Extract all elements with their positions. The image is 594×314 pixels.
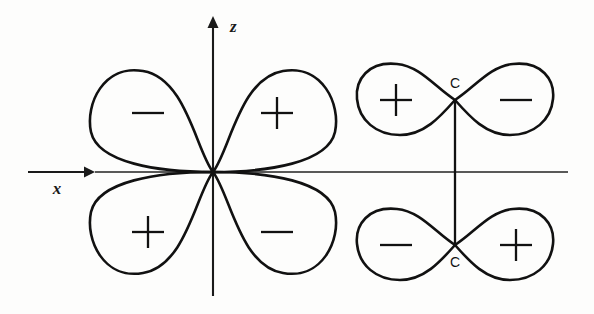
orbital-diagram-figure: x z xyxy=(0,0,594,314)
diagram-canvas: x z xyxy=(0,0,594,314)
d-orbital-lobe-upper-right xyxy=(213,70,336,172)
lower-carbon-label: C xyxy=(450,254,460,270)
d-orbital-lobe-lower-right xyxy=(213,172,336,274)
z-axis-label: z xyxy=(229,17,237,36)
left-panel-d-orbital: x z xyxy=(28,16,336,296)
x-axis-arrowhead-icon xyxy=(84,167,95,178)
d-orbital-lobe-lower-left xyxy=(90,172,213,274)
right-panel-p-orbitals: C C xyxy=(300,64,568,280)
sign-lower-left-plus xyxy=(132,216,164,248)
x-axis-label: x xyxy=(52,179,62,198)
sign-p-upper-left-plus xyxy=(380,84,412,116)
sign-upper-right-plus xyxy=(261,97,293,129)
upper-carbon-label: C xyxy=(450,75,460,91)
sign-p-lower-right-plus xyxy=(500,229,532,261)
x-axis: x xyxy=(28,167,95,199)
d-orbital-lobe-upper-left xyxy=(90,70,213,172)
z-axis-arrowhead-icon xyxy=(208,16,219,28)
